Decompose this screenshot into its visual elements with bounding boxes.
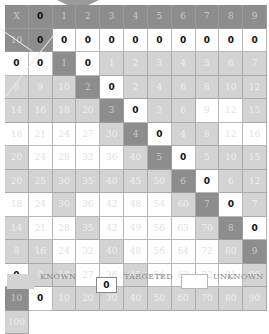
corner-label: X	[5, 5, 29, 29]
known-cell[interactable]: 60	[172, 193, 196, 217]
known-cell[interactable]: 70	[196, 217, 220, 241]
unknown-cell[interactable]: 27	[76, 123, 100, 147]
unknown-cell[interactable]: 16	[243, 123, 267, 147]
known-cell[interactable]: 100	[5, 311, 29, 334]
known-cell[interactable]: 10	[53, 76, 77, 100]
known-cell[interactable]: 80	[219, 240, 243, 264]
zero-cell[interactable]: 0	[100, 29, 124, 53]
known-cell[interactable]: 14	[5, 217, 29, 241]
known-cell[interactable]: 6	[172, 76, 196, 100]
zero-cell[interactable]: 0	[29, 52, 53, 76]
zero-cell[interactable]: 0	[243, 217, 267, 241]
unknown-cell[interactable]: 56	[148, 240, 172, 264]
unknown-cell[interactable]: 24	[53, 240, 77, 264]
known-cell[interactable]: 8	[196, 123, 220, 147]
zero-cell[interactable]: 0	[124, 29, 148, 53]
known-cell[interactable]: 35	[76, 217, 100, 241]
known-cell[interactable]: 7	[243, 193, 267, 217]
unknown-cell[interactable]: 18	[5, 123, 29, 147]
zero-cell[interactable]: 0	[148, 123, 172, 147]
zero-cell[interactable]: 0	[219, 193, 243, 217]
unknown-cell[interactable]: 18	[5, 193, 29, 217]
known-cell[interactable]: 45	[124, 170, 148, 194]
unknown-cell[interactable]: 32	[76, 146, 100, 170]
unknown-cell[interactable]: 28	[53, 217, 77, 241]
known-cell[interactable]: 6	[219, 170, 243, 194]
unknown-cell[interactable]: 21	[29, 123, 53, 147]
known-cell[interactable]: 6	[219, 52, 243, 76]
known-cell[interactable]: 30	[53, 193, 77, 217]
known-cell[interactable]: 1	[100, 52, 124, 76]
zero-cell[interactable]: 0	[243, 29, 267, 53]
known-cell[interactable]: 3	[148, 99, 172, 123]
known-cell[interactable]: 40	[100, 170, 124, 194]
known-cell[interactable]: 15	[243, 146, 267, 170]
unknown-cell[interactable]: 49	[124, 217, 148, 241]
zero-cell[interactable]: 0	[76, 29, 100, 53]
known-cell[interactable]: 50	[148, 170, 172, 194]
known-cell[interactable]: 4	[172, 123, 196, 147]
known-cell[interactable]: 10	[219, 76, 243, 100]
known-cell[interactable]: 8	[5, 76, 29, 100]
unknown-cell[interactable]: 32	[76, 240, 100, 264]
unknown-cell[interactable]: 42	[100, 217, 124, 241]
known-cell[interactable]: 16	[29, 99, 53, 123]
zero-cell[interactable]: 0	[76, 52, 100, 76]
known-cell[interactable]: 20	[5, 146, 29, 170]
known-cell[interactable]: 40	[124, 146, 148, 170]
unknown-cell[interactable]: 72	[196, 240, 220, 264]
zero-cell[interactable]: 0	[124, 99, 148, 123]
unknown-cell[interactable]: 42	[100, 193, 124, 217]
known-cell[interactable]: 18	[53, 99, 77, 123]
unknown-cell[interactable]: 21	[29, 217, 53, 241]
zero-cell[interactable]: 0	[172, 146, 196, 170]
known-cell[interactable]: 30	[53, 170, 77, 194]
known-cell[interactable]: 4	[172, 52, 196, 76]
unknown-cell[interactable]: 28	[53, 146, 77, 170]
known-cell[interactable]: 2	[124, 52, 148, 76]
known-cell[interactable]: 12	[243, 76, 267, 100]
known-cell[interactable]: 3	[148, 52, 172, 76]
unknown-cell[interactable]: 24	[29, 193, 53, 217]
column-header: 3	[100, 5, 124, 29]
unknown-cell[interactable]: 12	[219, 123, 243, 147]
known-cell[interactable]: 16	[29, 240, 53, 264]
known-cell[interactable]: 4	[148, 76, 172, 100]
known-cell[interactable]: 20	[5, 170, 29, 194]
known-cell[interactable]: 25	[29, 170, 53, 194]
unknown-cell[interactable]: 9	[196, 99, 220, 123]
known-cell[interactable]: 12	[243, 170, 267, 194]
known-cell[interactable]: 9	[29, 76, 53, 100]
known-cell[interactable]: 5	[196, 52, 220, 76]
unknown-cell[interactable]: 48	[124, 193, 148, 217]
unknown-cell[interactable]: 48	[124, 240, 148, 264]
known-cell[interactable]: 15	[243, 99, 267, 123]
zero-cell[interactable]: 0	[100, 76, 124, 100]
known-cell[interactable]: 2	[124, 76, 148, 100]
zero-cell[interactable]: 0	[219, 29, 243, 53]
zero-cell[interactable]: 0	[172, 29, 196, 53]
known-cell[interactable]: 14	[5, 99, 29, 123]
known-cell[interactable]: 40	[100, 240, 124, 264]
unknown-cell[interactable]: 36	[100, 146, 124, 170]
known-cell[interactable]: 5	[196, 146, 220, 170]
known-cell[interactable]: 7	[243, 52, 267, 76]
unknown-cell[interactable]: 24	[53, 123, 77, 147]
known-cell[interactable]: 10	[219, 146, 243, 170]
unknown-cell[interactable]: 63	[172, 217, 196, 241]
unknown-cell[interactable]: 36	[76, 193, 100, 217]
unknown-cell[interactable]: 12	[219, 99, 243, 123]
known-cell[interactable]: 6	[172, 99, 196, 123]
known-cell[interactable]: 8	[5, 240, 29, 264]
unknown-cell[interactable]: 54	[148, 193, 172, 217]
zero-cell[interactable]: 0	[148, 29, 172, 53]
known-cell[interactable]: 30	[100, 123, 124, 147]
unknown-cell[interactable]: 24	[29, 146, 53, 170]
zero-cell[interactable]: 0	[196, 29, 220, 53]
known-cell[interactable]: 35	[76, 170, 100, 194]
unknown-cell[interactable]: 64	[172, 240, 196, 264]
known-cell[interactable]: 8	[196, 76, 220, 100]
unknown-cell[interactable]: 56	[148, 217, 172, 241]
zero-cell[interactable]: 0	[196, 170, 220, 194]
known-cell[interactable]: 20	[76, 99, 100, 123]
